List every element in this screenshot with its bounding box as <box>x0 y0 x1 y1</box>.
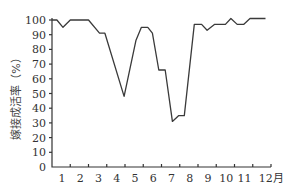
x-tick-label: 2 <box>77 172 84 185</box>
x-tick-label: 9 <box>205 172 212 185</box>
x-tick-label: 11 <box>238 172 252 185</box>
y-tick-label: 40 <box>32 102 46 115</box>
y-axis-ticks: 0102030405060708090100 <box>25 14 52 174</box>
y-tick-label: 100 <box>25 14 46 27</box>
y-tick-label: 90 <box>32 29 46 42</box>
x-tick-label: 10 <box>219 172 233 185</box>
x-tick-label: 1 <box>59 172 66 185</box>
x-tick-label: 6 <box>150 172 157 185</box>
x-tick-label: 4 <box>113 172 120 185</box>
y-tick-label: 30 <box>32 117 46 130</box>
line-chart: 嫁接成活率（%） 0102030405060708090100 12345678… <box>0 0 289 192</box>
y-tick-label: 0 <box>39 161 46 174</box>
y-tick-label: 60 <box>32 73 46 86</box>
x-tick-label: 7 <box>168 172 175 185</box>
y-tick-label: 80 <box>32 43 46 56</box>
x-tick-label: 8 <box>186 172 193 185</box>
x-tick-label: 12月 <box>259 172 284 185</box>
y-tick-label: 20 <box>32 132 46 145</box>
x-tick-label: 3 <box>95 172 102 185</box>
y-tick-label: 10 <box>32 146 46 159</box>
y-axis-title: 嫁接成活率（%） <box>9 52 23 139</box>
axes <box>52 18 271 167</box>
y-axis-label: 嫁接成活率（%） <box>9 52 23 139</box>
y-tick-label: 50 <box>32 88 46 101</box>
x-tick-label: 5 <box>132 172 139 185</box>
y-tick-label: 70 <box>32 58 46 71</box>
data-series-line <box>52 19 266 122</box>
